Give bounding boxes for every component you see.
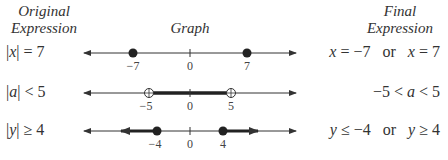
- variable: x: [329, 43, 336, 60]
- value: −5: [373, 83, 390, 100]
- value: 7: [432, 43, 440, 60]
- svg-text:−5: −5: [140, 99, 153, 113]
- final-expression-2: −5 < a < 5: [373, 83, 440, 101]
- operator: <: [419, 83, 428, 100]
- final-expression-3: y ≤ −4 or y ≥ 4: [330, 121, 440, 139]
- operator: ≤: [341, 121, 350, 138]
- value: 4: [432, 121, 440, 138]
- value: −7: [354, 43, 371, 60]
- variable: x: [408, 43, 415, 60]
- value: 5: [432, 83, 440, 100]
- svg-text:−7: −7: [127, 59, 140, 73]
- variable: y: [330, 121, 337, 138]
- variable: y: [408, 121, 415, 138]
- connector: or: [383, 121, 396, 138]
- svg-text:−4: −4: [149, 137, 162, 151]
- number-line-1: −7 0 7: [84, 49, 296, 74]
- number-line-2: −5 0 5: [84, 89, 296, 114]
- operator: ≥: [419, 121, 428, 138]
- svg-text:4: 4: [220, 137, 226, 151]
- variable: a: [407, 83, 415, 100]
- svg-text:5: 5: [228, 99, 234, 113]
- svg-text:0: 0: [187, 99, 193, 113]
- open-point-neg5: [145, 89, 154, 98]
- svg-text:0: 0: [187, 59, 193, 73]
- number-line-3: −4 0 4: [84, 127, 296, 152]
- operator: <: [394, 83, 403, 100]
- svg-text:0: 0: [187, 137, 193, 151]
- operator: =: [419, 43, 428, 60]
- operator: =: [340, 43, 349, 60]
- closed-point-neg4: [153, 127, 162, 136]
- closed-point-7: [243, 49, 252, 58]
- closed-point-4: [219, 127, 228, 136]
- open-point-5: [227, 89, 236, 98]
- connector: or: [383, 43, 396, 60]
- closed-point-neg7: [129, 49, 138, 58]
- value: −4: [354, 121, 371, 138]
- final-expression-1: x = −7 or x = 7: [329, 43, 440, 61]
- svg-text:7: 7: [244, 59, 250, 73]
